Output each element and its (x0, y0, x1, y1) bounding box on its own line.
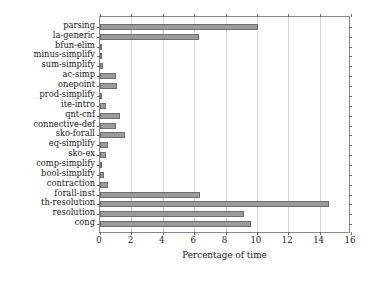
x-axis-tick-labels: 0246810121416 (99, 235, 350, 249)
y-tick-mark (349, 224, 352, 225)
y-axis-label-sum-simplify: sum-simplify (0, 60, 95, 69)
x-tick-label: 6 (190, 235, 195, 246)
bar (100, 53, 102, 59)
y-tick-mark (349, 76, 352, 77)
bar (100, 44, 102, 50)
bar (100, 211, 244, 217)
bar (100, 201, 329, 207)
y-tick-mark (349, 204, 352, 205)
y-axis-label-ac-simp: ac-simp (0, 70, 95, 79)
y-tick-mark (349, 185, 352, 186)
bar (100, 182, 108, 188)
gridline (194, 17, 195, 232)
y-axis-label-forall-inst: forall-inst (0, 189, 95, 198)
bar (100, 123, 116, 129)
gridline (163, 17, 164, 232)
x-tick-mark (194, 14, 195, 17)
gridline (131, 17, 132, 232)
x-tick-mark (163, 14, 164, 17)
x-tick-mark (320, 14, 321, 17)
y-axis-label-resolution: resolution (0, 208, 95, 217)
bar (100, 221, 251, 227)
y-axis-category-labels: parsingla-genericbfun-elimminus-simplify… (0, 16, 95, 233)
bar (100, 63, 103, 69)
bar (100, 24, 258, 30)
y-axis-label-th-resolution: th-resolution (0, 198, 95, 207)
y-axis-label-parsing: parsing (0, 21, 95, 30)
gridline (257, 17, 258, 232)
x-tick-mark (100, 14, 101, 17)
bar (100, 34, 199, 40)
y-axis-label-comp-simplify: comp-simplify (0, 159, 95, 168)
y-axis-label-eq-simplify: eq-simplify (0, 139, 95, 148)
y-tick-mark (349, 86, 352, 87)
y-tick-mark (349, 195, 352, 196)
bar (100, 113, 120, 119)
bar (100, 83, 117, 89)
gridline (226, 17, 227, 232)
y-axis-label-bool-simplify: bool-simplify (0, 169, 95, 178)
x-tick-mark (288, 14, 289, 17)
x-tick-label: 2 (128, 235, 133, 246)
y-axis-label-connective-def: connective-def (0, 120, 95, 129)
y-tick-mark (349, 165, 352, 166)
x-tick-label: 10 (250, 235, 261, 246)
y-tick-mark (349, 116, 352, 117)
bar (100, 73, 116, 79)
y-axis-label-sko-ex: sko-ex (0, 149, 95, 158)
y-axis-label-onepoint: onepoint (0, 80, 95, 89)
y-axis-label-prod-simplify: prod-simplify (0, 90, 95, 99)
x-tick-label: 4 (159, 235, 164, 246)
y-axis-label-ite-intro: ite-intro (0, 100, 95, 109)
y-axis-label-sko-forall: sko-forall (0, 129, 95, 138)
y-tick-mark (349, 96, 352, 97)
y-axis-label-la-generic: la-generic (0, 31, 95, 40)
y-tick-mark (349, 126, 352, 127)
bar (100, 103, 106, 109)
x-tick-label: 14 (313, 235, 324, 246)
y-axis-label-contraction: contraction (0, 179, 95, 188)
y-tick-mark (349, 66, 352, 67)
y-tick-mark (349, 106, 352, 107)
y-tick-mark (349, 56, 352, 57)
y-tick-mark (349, 37, 352, 38)
y-axis-label-bfun-elim: bfun-elim (0, 41, 95, 50)
bar (100, 132, 125, 138)
y-axis-label-cong: cong (0, 218, 95, 227)
x-tick-mark (131, 14, 132, 17)
bar (100, 93, 102, 99)
gridline (288, 17, 289, 232)
x-tick-label: 8 (222, 235, 227, 246)
y-tick-mark (349, 27, 352, 28)
bar (100, 192, 200, 198)
x-tick-mark (257, 14, 258, 17)
bar (100, 152, 106, 158)
y-axis-label-minus-simplify: minus-simplify (0, 50, 95, 59)
gridline (320, 17, 321, 232)
y-tick-mark (349, 47, 352, 48)
bar (100, 172, 104, 178)
y-tick-mark (349, 214, 352, 215)
y-tick-mark (349, 175, 352, 176)
x-tick-label: 0 (96, 235, 101, 246)
y-axis-label-qnt-cnf: qnt-cnf (0, 110, 95, 119)
bar (100, 142, 108, 148)
y-tick-mark (349, 145, 352, 146)
x-tick-label: 12 (282, 235, 293, 246)
bar (100, 162, 102, 168)
plot-area (99, 16, 350, 233)
x-tick-mark (351, 14, 352, 17)
y-tick-mark (349, 155, 352, 156)
bar-chart: parsingla-genericbfun-elimminus-simplify… (0, 0, 375, 285)
x-axis-title: Percentage of time (99, 250, 350, 260)
y-tick-mark (349, 135, 352, 136)
x-tick-label: 16 (345, 235, 356, 246)
x-tick-mark (226, 14, 227, 17)
